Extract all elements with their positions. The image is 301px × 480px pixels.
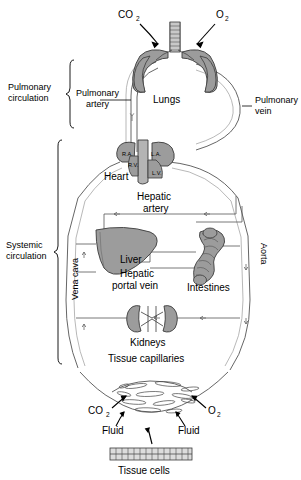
label-systemic-circulation-line2: circulation: [6, 251, 47, 261]
label-lung-o2-base: O: [216, 9, 224, 20]
label-tissue-o2-sub: 2: [217, 411, 221, 418]
label-pulmonary-vein-line1: Pulmonary: [255, 95, 299, 105]
heart-chamber-left-atrium: L.A.: [151, 151, 161, 157]
label-tissue-cells: Tissue cells: [118, 465, 170, 476]
label-pulmonary-artery-line2: artery: [86, 99, 110, 109]
label-fluid-right: Fluid: [178, 425, 200, 436]
tissue-cells-band: [110, 448, 192, 460]
label-tissue-co2-sub: 2: [106, 411, 110, 418]
label-heart: Heart: [104, 171, 129, 182]
label-lung-o2-sub: 2: [225, 15, 229, 22]
label-kidneys: Kidneys: [130, 337, 166, 348]
label-pulmonary-vein-line2: vein: [255, 106, 272, 116]
label-hepatic-portal-vein-line2: portal vein: [112, 280, 158, 291]
label-lungs: Lungs: [153, 94, 180, 105]
label-systemic-circulation-line1: Systemic: [6, 240, 43, 250]
label-tissue-capillaries: Tissue capillaries: [108, 353, 184, 364]
circulatory-system-diagram: R.A. R.V. L.A. L.V.: [0, 0, 301, 480]
label-intestines: Intestines: [187, 282, 230, 293]
heart-chamber-left-ventricle: L.V.: [152, 170, 162, 176]
label-hepatic-artery-line2: artery: [143, 203, 169, 214]
label-liver: Liver: [120, 254, 142, 265]
label-tissue-o2-base: O: [208, 405, 216, 416]
heart-chamber-right-ventricle: R.V.: [128, 162, 139, 168]
label-lung-co2-base: CO: [118, 9, 133, 20]
label-pulmonary-circulation-line1: Pulmonary: [8, 82, 52, 92]
label-hepatic-artery-line1: Hepatic: [137, 191, 171, 202]
label-lung-co2-sub: 2: [136, 15, 140, 22]
label-pulmonary-circulation-line2: circulation: [8, 93, 49, 103]
label-pulmonary-artery-line1: Pulmonary: [76, 88, 120, 98]
label-tissue-co2-base: CO: [88, 405, 103, 416]
label-fluid-left: Fluid: [102, 425, 124, 436]
heart-chamber-right-atrium: R.A.: [122, 151, 133, 157]
label-vena-cava: Vena cava: [70, 258, 80, 300]
label-hepatic-portal-vein-line1: Hepatic: [120, 268, 154, 279]
label-aorta: Aorta: [259, 243, 269, 265]
